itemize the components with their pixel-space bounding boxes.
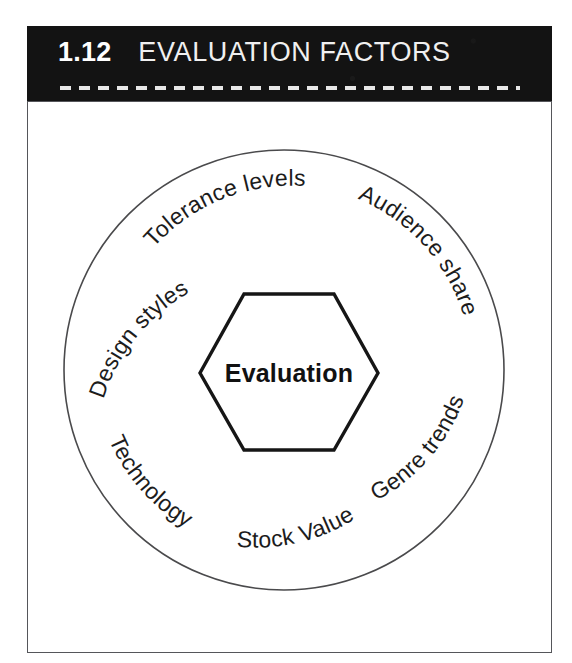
page-title: EVALUATION FACTORS — [138, 37, 450, 68]
dashed-divider-icon — [60, 86, 520, 90]
diagram-frame — [27, 101, 552, 653]
section-number: 1.12 — [58, 37, 111, 68]
section-header-banner: 1.12 EVALUATION FACTORS — [27, 26, 552, 101]
header-text-row: 1.12 EVALUATION FACTORS — [58, 37, 451, 68]
page-root: 1.12 EVALUATION FACTORS Evalua — [0, 0, 572, 663]
